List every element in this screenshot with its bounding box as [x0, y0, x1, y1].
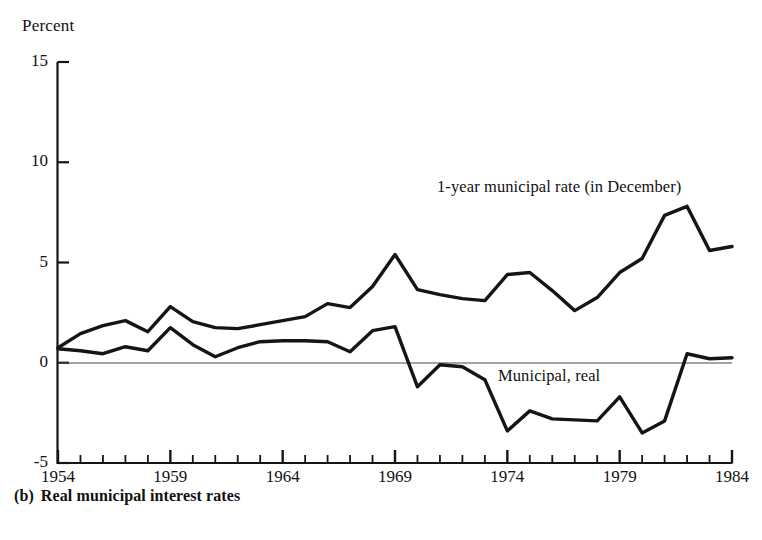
x-tick-label: 1974 [472, 467, 542, 487]
y-tick-label: 15 [6, 51, 48, 71]
series-line-real [58, 327, 732, 433]
caption-text: Real municipal interest rates [41, 487, 240, 504]
figure-caption: (b)Real municipal interest rates [14, 487, 240, 505]
x-tick-label: 1964 [248, 467, 318, 487]
y-axis-title: Percent [22, 16, 74, 36]
y-tick-label: 10 [6, 151, 48, 171]
y-tick-label: 0 [6, 352, 48, 372]
x-tick-label: 1959 [135, 467, 205, 487]
y-tick-label: 5 [6, 252, 48, 272]
series-label-real: Municipal, real [498, 366, 600, 386]
x-tick-label: 1984 [697, 467, 762, 487]
x-tick-label: 1954 [23, 467, 93, 487]
y-axis-ticks [58, 62, 70, 463]
x-tick-label: 1969 [360, 467, 430, 487]
caption-index: (b) [14, 487, 34, 504]
chart-plot-area [0, 0, 762, 540]
x-axis-ticks [58, 450, 732, 464]
axis-lines [57, 62, 732, 464]
figure-real-municipal-interest-rates: Percent 1-year municipal rate (in Decemb… [0, 0, 762, 540]
x-tick-label: 1979 [585, 467, 655, 487]
series-label-nominal: 1-year municipal rate (in December) [437, 177, 681, 197]
